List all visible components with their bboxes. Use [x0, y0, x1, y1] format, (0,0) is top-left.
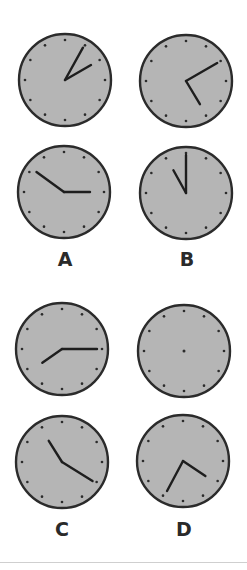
hour-marker: [148, 330, 151, 333]
hour-marker: [219, 172, 222, 175]
hour-marker: [183, 390, 186, 393]
hour-marker: [150, 60, 153, 63]
hour-marker: [95, 481, 98, 484]
clock-d-top: [138, 305, 230, 397]
hour-marker: [182, 420, 185, 423]
hour-marker: [83, 156, 86, 159]
hour-marker: [63, 151, 66, 154]
hour-marker: [203, 384, 206, 387]
hour-marker: [61, 421, 64, 424]
hour-marker: [185, 232, 188, 235]
hour-marker: [163, 315, 166, 318]
hour-marker: [26, 441, 29, 444]
hour-marker: [219, 100, 222, 103]
clock-c-top: [16, 303, 108, 395]
clock-a-top: [19, 34, 111, 126]
hour-marker: [101, 348, 104, 351]
hour-marker: [61, 388, 64, 391]
hour-marker: [64, 39, 67, 42]
hour-marker: [81, 426, 84, 429]
hour-marker: [150, 172, 153, 175]
hour-marker: [24, 79, 27, 82]
hour-marker: [216, 480, 219, 483]
hour-marker: [97, 171, 100, 174]
bottom-divider: [0, 562, 247, 563]
hour-marker: [28, 211, 31, 214]
hour-marker: [219, 212, 222, 215]
hour-marker: [202, 425, 205, 428]
hour-marker: [101, 461, 104, 464]
hour-marker: [165, 114, 168, 117]
hour-marker: [21, 348, 24, 351]
hour-marker: [182, 500, 185, 503]
hour-marker: [165, 226, 168, 229]
hour-marker: [44, 44, 47, 47]
hour-marker: [222, 460, 225, 463]
hour-marker: [43, 225, 46, 228]
hour-marker: [203, 315, 206, 318]
hour-marker: [225, 80, 228, 83]
hour-marker: [41, 313, 44, 316]
hour-marker: [61, 308, 64, 311]
hour-marker: [150, 212, 153, 215]
hour-marker: [148, 370, 151, 373]
hour-marker: [41, 495, 44, 498]
hour-marker: [217, 370, 220, 373]
option-label-d: D: [176, 520, 192, 539]
clock-c-bottom: [16, 416, 108, 508]
hour-marker: [185, 120, 188, 123]
hour-marker: [98, 99, 101, 102]
hour-marker: [28, 171, 31, 174]
hour-marker: [29, 99, 32, 102]
hour-marker: [225, 192, 228, 195]
hour-marker: [81, 382, 84, 385]
hour-marker: [142, 460, 145, 463]
hour-marker: [216, 440, 219, 443]
hour-marker: [83, 225, 86, 228]
hour-marker: [81, 313, 84, 316]
hour-marker: [41, 426, 44, 429]
hour-marker: [43, 156, 46, 159]
clock-b-bottom: [140, 147, 232, 239]
hour-marker: [165, 45, 168, 48]
hour-marker: [145, 80, 148, 83]
clock-puzzle-figure: [0, 0, 247, 570]
hour-marker: [64, 119, 67, 122]
hour-marker: [95, 441, 98, 444]
hour-marker: [143, 350, 146, 353]
hour-marker: [41, 382, 44, 385]
hour-marker: [23, 191, 26, 194]
option-label-c: C: [55, 520, 69, 539]
hour-marker: [217, 330, 220, 333]
hour-marker: [163, 384, 166, 387]
hour-marker: [84, 113, 87, 116]
hour-marker: [81, 495, 84, 498]
clock-b-top: [140, 35, 232, 127]
hour-marker: [205, 226, 208, 229]
hour-marker: [162, 494, 165, 497]
hour-marker: [202, 494, 205, 497]
hour-marker: [104, 79, 107, 82]
hour-marker: [21, 461, 24, 464]
hour-marker: [95, 328, 98, 331]
hour-marker: [97, 211, 100, 214]
hour-marker: [185, 40, 188, 43]
clock-d-bottom: [137, 415, 229, 507]
hour-marker: [44, 113, 47, 116]
hour-marker: [205, 45, 208, 48]
hour-marker: [26, 481, 29, 484]
center-dot: [183, 350, 186, 353]
hour-marker: [162, 425, 165, 428]
hour-marker: [205, 114, 208, 117]
hour-marker: [98, 59, 101, 62]
hour-marker: [165, 157, 168, 160]
hour-marker: [95, 368, 98, 371]
hour-marker: [205, 157, 208, 160]
hour-marker: [223, 350, 226, 353]
clock-a-bottom: [18, 146, 110, 238]
hour-marker: [183, 310, 186, 313]
hour-marker: [150, 100, 153, 103]
hour-marker: [63, 231, 66, 234]
hour-marker: [145, 192, 148, 195]
option-label-b: B: [180, 250, 194, 269]
